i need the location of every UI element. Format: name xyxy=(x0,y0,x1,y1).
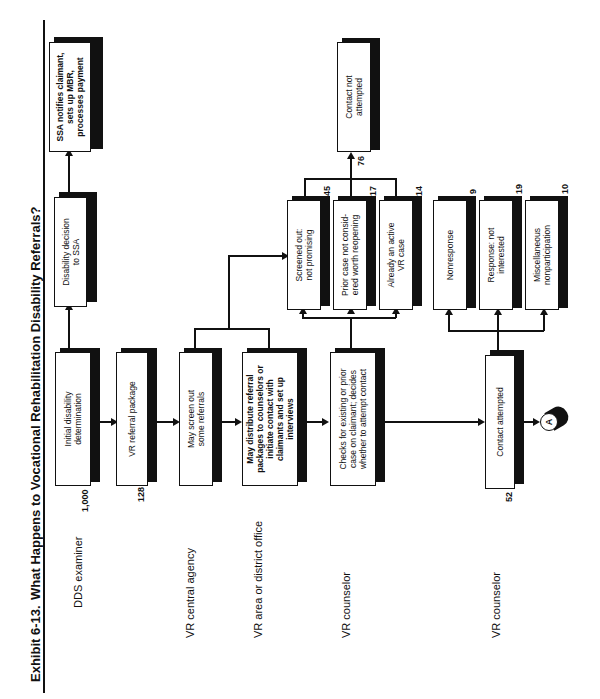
box-initial-determination-text: Initial disability determination xyxy=(63,392,83,447)
flow-line xyxy=(68,152,70,197)
flow-line xyxy=(194,328,268,330)
row-label-dds-examiner: DDS examiner xyxy=(72,536,84,608)
count-prior-case: 17 xyxy=(368,186,378,196)
box-misc-nonparticipation-text: Miscellaneous nonparticipation xyxy=(532,225,552,285)
arrow-right-icon xyxy=(533,418,540,426)
count-contact-not-attempted: 76 xyxy=(356,156,366,166)
count-nonresponse: 9 xyxy=(468,189,478,194)
flow-line xyxy=(350,317,352,352)
flow-line xyxy=(194,328,196,352)
connector-a-label: A xyxy=(544,419,554,426)
box-response-not-interested: Response: not interested xyxy=(479,200,513,310)
box-decision-to-ssa-text: Disability decision to SSA xyxy=(61,218,81,286)
title-rule xyxy=(43,20,45,693)
flow-line xyxy=(350,155,352,200)
box-misc-nonparticipation: Miscellaneous nonparticipation xyxy=(525,200,559,310)
box-nonresponse-text: Nonresponse xyxy=(445,230,455,281)
count-already-active: 14 xyxy=(414,186,424,196)
box-checks-existing-text: Checks for existing or prior case on cla… xyxy=(338,368,368,469)
box-nonresponse: Nonresponse xyxy=(433,200,467,310)
flow-line xyxy=(395,178,397,200)
row-label-vr-central-agency: VR central agency xyxy=(184,548,196,638)
count-initial: 1,000 xyxy=(80,489,90,512)
box-screened-out: Screened out: not promising xyxy=(287,200,321,310)
flow-line xyxy=(68,306,70,352)
box-screened-out-text: Screened out: not promising xyxy=(294,229,314,282)
box-contact-not-attempted-text: Contact not attempted xyxy=(344,75,364,118)
flow-line xyxy=(268,328,270,352)
connector-a: A xyxy=(540,413,558,431)
flow-line xyxy=(228,255,286,257)
box-may-distribute: May distribute referral packages to coun… xyxy=(242,352,298,486)
flow-line xyxy=(304,178,306,200)
box-vr-referral-package: VR referral package xyxy=(116,352,148,486)
flow-line xyxy=(448,330,544,332)
box-ssa-notifies-text: SSA notifies claimant, sets up MBR, proc… xyxy=(55,53,85,142)
box-may-screen-out: May screen out some referrals xyxy=(179,352,213,486)
exhibit-label: Exhibit 6-13. xyxy=(28,605,43,682)
box-vr-referral-package-text: VR referral package xyxy=(127,381,137,457)
box-already-active: Already an active VR case xyxy=(379,200,413,310)
arrow-right-icon xyxy=(322,418,329,426)
box-response-not-interested-text: Response: not interested xyxy=(486,228,506,283)
count-screened-out: 45 xyxy=(322,186,332,196)
box-initial-determination: Initial disability determination xyxy=(55,352,91,486)
count-misc-nonparticipation: 10 xyxy=(560,184,570,194)
box-contact-attempted: Contact attempted xyxy=(485,355,515,489)
box-prior-case-text: Prior case not consid- ered worth reopen… xyxy=(340,214,360,296)
arrow-up-icon xyxy=(347,152,355,159)
box-checks-existing: Checks for existing or prior case on cla… xyxy=(330,352,376,486)
arrow-right-icon xyxy=(235,418,242,426)
count-response-not-interested: 19 xyxy=(514,184,524,194)
box-prior-case: Prior case not consid- ered worth reopen… xyxy=(333,200,367,310)
arrow-right-icon xyxy=(478,418,485,426)
box-already-active-text: Already an active VR case xyxy=(386,222,406,287)
count-contact-attempted: 52 xyxy=(504,492,514,502)
box-contact-not-attempted: Contact not attempted xyxy=(337,42,371,152)
box-ssa-notifies: SSA notifies claimant, sets up MBR, proc… xyxy=(49,42,91,152)
box-may-distribute-text: May distribute referral packages to coun… xyxy=(245,365,295,473)
row-label-vr-area-office: VR area or district office xyxy=(252,521,264,638)
box-decision-to-ssa: Disability decision to SSA xyxy=(54,197,87,307)
flow-line xyxy=(228,255,230,329)
flow-line xyxy=(381,421,481,423)
count-vr-referral: 128 xyxy=(136,487,146,502)
box-contact-attempted-text: Contact attempted xyxy=(495,387,505,456)
row-label-vr-counselor-2: VR counselor xyxy=(490,572,502,638)
flow-line xyxy=(497,330,499,355)
box-may-screen-out-text: May screen out some referrals xyxy=(186,390,206,448)
row-label-vr-counselor-1: VR counselor xyxy=(340,572,352,638)
flow-line xyxy=(302,317,396,319)
exhibit-title: What Happens to Vocational Rehabilitatio… xyxy=(28,207,43,600)
